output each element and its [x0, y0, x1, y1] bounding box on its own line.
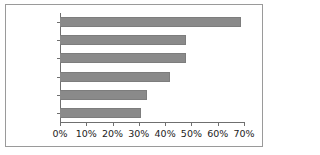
value-tick	[86, 123, 87, 126]
bar-row	[60, 49, 244, 67]
bar-row	[60, 31, 244, 49]
bar-row	[60, 104, 244, 122]
bar	[60, 90, 147, 100]
bar	[60, 108, 141, 118]
bar	[60, 72, 170, 82]
bar	[60, 53, 186, 63]
plot-area	[60, 13, 244, 122]
value-tick	[218, 123, 219, 126]
value-tick	[191, 123, 192, 126]
bar	[60, 17, 241, 27]
value-tick	[244, 123, 245, 126]
value-tick	[113, 123, 114, 126]
value-tick-label: 70%	[224, 128, 264, 139]
bar	[60, 35, 186, 45]
bar-row	[60, 13, 244, 31]
value-tick	[139, 123, 140, 126]
bar-row	[60, 86, 244, 104]
bar-row	[60, 68, 244, 86]
value-tick	[165, 123, 166, 126]
value-tick	[60, 123, 61, 126]
